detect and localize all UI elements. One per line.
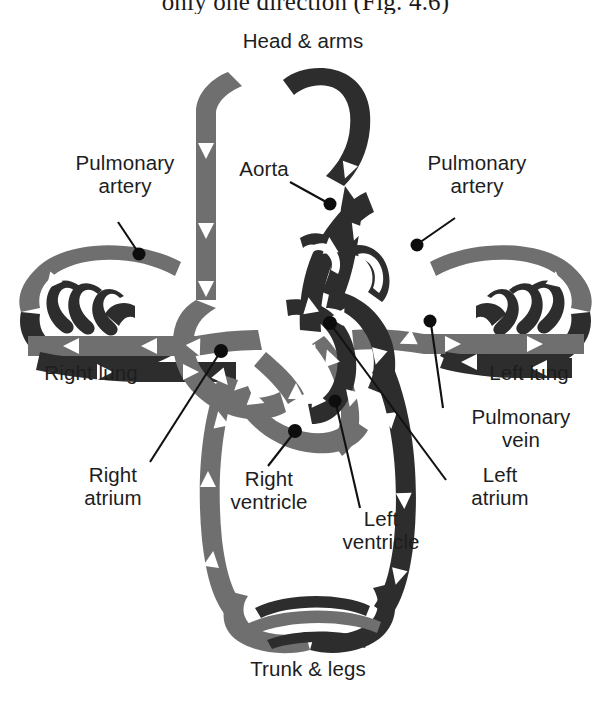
label-right-lung: Right lung [16, 362, 166, 385]
label-left-ventricle: Left ventricle [316, 508, 446, 553]
leader-dot-pulmonary-artery-right [411, 239, 424, 252]
label-right-ventricle: Right ventricle [198, 468, 340, 513]
aorta-descending-dark [372, 364, 416, 618]
leader-dot-right-ventricle [288, 424, 302, 438]
leader-dot-pulmonary-artery-left [133, 248, 146, 261]
leader-dot-left-ventricle [329, 395, 342, 408]
label-trunk-and-legs: Trunk & legs [218, 658, 398, 681]
leader-dot-aorta [324, 198, 337, 211]
label-head-and-arms: Head & arms [213, 30, 393, 53]
label-pulmonary-vein: Pulmonary vein [441, 406, 601, 451]
double-circulation-diagram: Head & arms Trunk & legs Pulmonary arter… [0, 0, 611, 706]
label-left-atrium: Left atrium [441, 464, 559, 509]
label-pulmonary-artery-left: Pulmonary artery [40, 152, 210, 197]
label-aorta: Aorta [216, 158, 312, 181]
pulmonary-valve-cusps [352, 245, 389, 302]
leader-dot-pulmonary-vein [424, 315, 437, 328]
label-left-lung: Left lung [462, 362, 596, 385]
label-right-atrium: Right atrium [48, 464, 178, 509]
leader-dot-left-atrium [323, 316, 337, 330]
circulation-vessel-artwork [0, 0, 611, 706]
trunk-and-legs-capillary-bed [224, 584, 396, 653]
leader-dot-right-atrium [214, 344, 228, 358]
label-pulmonary-artery-right: Pulmonary artery [392, 152, 562, 197]
